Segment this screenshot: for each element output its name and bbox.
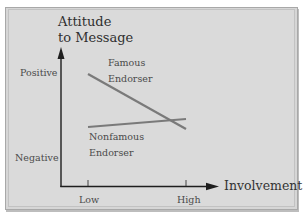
y-axis-arrow-icon [58,47,65,59]
series-label-famous-line2: Endorser [108,70,152,87]
x-axis-title: Involvement [224,178,302,193]
series-label-nonfamous-line2: Endorser [89,144,133,161]
y-axis-title-line2: to Message [58,30,133,46]
y-tick-label-positive: Positive [20,67,58,78]
y-axis-title-line1: Attitude [58,14,111,30]
x-axis-arrow-icon [206,183,219,190]
x-tick-label-high: High [177,194,201,205]
series-line-nonfamous [88,119,186,127]
series-label-nonfamous-line1: Nonfamous [89,128,144,145]
series-label-famous-line1: Famous [108,54,145,71]
x-tick-label-low: Low [79,194,99,205]
y-tick-label-negative: Negative [15,152,59,163]
